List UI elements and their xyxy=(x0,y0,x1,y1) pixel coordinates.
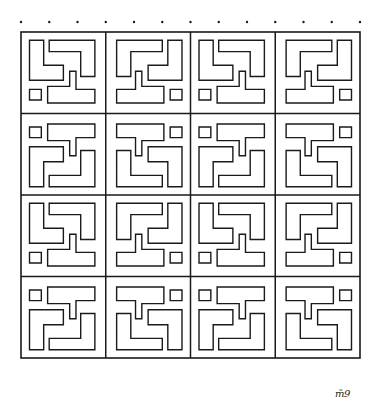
maze-artwork xyxy=(0,0,384,409)
artist-signature: m̃9 xyxy=(335,388,350,399)
